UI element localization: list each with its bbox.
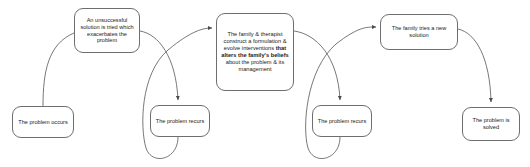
node-problem-recurs-1[interactable]: The problem recurs — [150, 105, 210, 137]
node-unsuccessful-solution[interactable]: An unsuccessful solution is tried which … — [74, 8, 140, 53]
node-problem-solved[interactable]: The problem is solved — [462, 107, 520, 141]
edge-new-solution-to-solved — [458, 29, 491, 102]
node-problem-recurs-1-label: The problem recurs — [154, 118, 206, 125]
node-family-new-solution-label: The family tries a new solution — [384, 25, 454, 39]
edge-occurs-to-unsuccessful — [43, 33, 74, 106]
node-problem-solved-label: The problem is solved — [466, 117, 516, 131]
node-problem-recurs-2-label: The problem recurs — [316, 118, 368, 125]
node-problem-recurs-2[interactable]: The problem recurs — [312, 105, 372, 137]
node-problem-occurs-label: The problem occurs — [16, 119, 70, 126]
edge-unsuccessful-to-recurs1 — [140, 31, 178, 100]
node-family-therapist-label: The family & therapist construct a formu… — [220, 31, 290, 73]
node-family-therapist[interactable]: The family & therapist construct a formu… — [216, 13, 294, 91]
edge-recurs2-to-new-solution — [306, 27, 376, 159]
edge-recurs1-to-family-therapist — [143, 28, 212, 159]
node-problem-occurs[interactable]: The problem occurs — [12, 106, 74, 138]
node-family-new-solution[interactable]: The family tries a new solution — [380, 14, 458, 50]
flowchart-diagram: The problem occurs An unsuccessful solut… — [0, 0, 530, 167]
node-unsuccessful-solution-label: An unsuccessful solution is tried which … — [78, 17, 136, 44]
edge-family-therapist-to-recurs2 — [294, 31, 340, 100]
